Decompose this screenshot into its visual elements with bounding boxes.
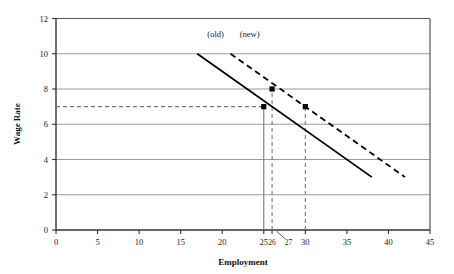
curve-label-old: (old) <box>207 29 224 39</box>
y-tick-label-2: 2 <box>44 190 48 200</box>
y-tick-label-8: 8 <box>44 84 48 94</box>
y-tick-label-6: 6 <box>44 119 48 129</box>
x-tick-label-25: 25 <box>260 237 269 247</box>
chart-background <box>0 0 454 274</box>
x-tick-label-20: 20 <box>218 237 227 247</box>
curve-label-new: (new) <box>240 29 260 39</box>
chart-figure: 051015202530354045 024681012 2627 (old)(… <box>0 0 454 274</box>
data-point-30-7 <box>303 104 308 109</box>
y-tick-label-10: 10 <box>40 49 49 59</box>
x-tick-label-0: 0 <box>54 237 58 247</box>
x-tick-label-40: 40 <box>384 237 393 247</box>
y-axis-title: Wage Rate <box>12 103 22 145</box>
y-tick-label-12: 12 <box>40 14 49 24</box>
x-tick-label-10: 10 <box>135 237 144 247</box>
x-tick-label-5: 5 <box>95 237 99 247</box>
data-point-26-8 <box>269 86 274 91</box>
x-tick-label-35: 35 <box>343 237 352 247</box>
y-tick-label-0: 0 <box>44 225 48 235</box>
x-tick-label-15: 15 <box>176 237 185 247</box>
x-tick-label-45: 45 <box>426 237 435 247</box>
wage-employment-chart: 051015202530354045 024681012 2627 (old)(… <box>0 0 454 274</box>
x-axis-title: Employment <box>218 257 268 267</box>
x-tick-label-27: 27 <box>285 238 293 247</box>
data-point-25-7 <box>261 104 266 109</box>
x-tick-label-26: 26 <box>268 238 276 247</box>
x-tick-label-30: 30 <box>301 237 310 247</box>
